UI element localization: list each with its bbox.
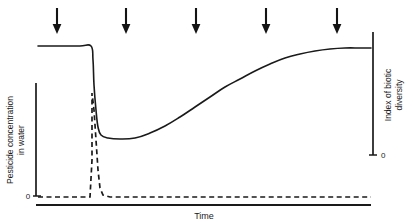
arrow-icon [333,8,342,34]
arrow-icon [122,8,131,34]
right-axis-label-line1: Index of biotic [383,68,393,121]
left-axis-label: Pesticide concentration in water [5,96,26,184]
left-axis-label-line2: in water [16,125,26,155]
arrow-icon [192,8,201,34]
biotic-diversity-curve [38,45,371,139]
right-axis-zero-label: 0 [381,151,386,160]
left-axis-zero-label: 0 [26,192,31,201]
left-axis-label-line1: Pesticide concentration [5,96,15,184]
arrow-icon [53,8,62,34]
right-axis-label-line2: diversity [394,79,404,111]
pesticide-application-arrows [53,8,342,34]
x-axis-label: Time [194,211,214,221]
right-axis-label: Index of biotic diversity [383,68,404,121]
arrow-icon [262,8,271,34]
pesticide-concentration-curve [38,93,371,197]
pesticide-biotic-diversity-figure: Pesticide concentration in water 0 Index… [0,0,413,224]
chart-canvas: Pesticide concentration in water 0 Index… [0,0,413,224]
